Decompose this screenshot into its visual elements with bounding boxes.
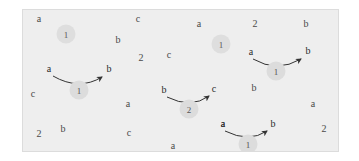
arrow-source-label: a — [221, 119, 225, 129]
diagram-panel: aca2bb2ccbaaab2ca211 ab1bc2ab1ab1 — [22, 9, 339, 152]
arrow-label-badge: 1 — [239, 135, 258, 153]
arrow-target-label: b — [271, 119, 276, 129]
arrow-curve-icon — [23, 10, 338, 151]
diagram-canvas: aca2bb2ccbaaab2ca211 ab1bc2ab1ab1 — [0, 0, 359, 161]
